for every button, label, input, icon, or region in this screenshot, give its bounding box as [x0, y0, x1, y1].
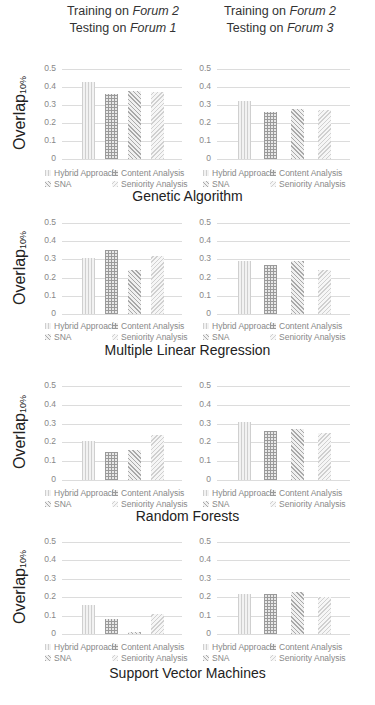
legend-swatch-icon	[112, 170, 118, 176]
legend-item-content: Content Analysis	[270, 321, 342, 332]
legend-swatch-icon	[270, 644, 276, 650]
bar-hybrid	[82, 258, 95, 314]
legend-swatch-icon	[45, 181, 51, 187]
y-tick-label: 0.5	[38, 63, 56, 73]
bar-seniority	[151, 435, 164, 480]
legend-item-hybrid: Hybrid Approach	[203, 168, 275, 179]
bar-content	[105, 619, 118, 634]
legend-swatch-icon	[203, 644, 209, 650]
gridline	[217, 542, 350, 543]
legend-swatch-icon	[270, 170, 276, 176]
gridline	[62, 542, 182, 543]
y-tick-label: 0	[193, 474, 211, 484]
y-tick-label: 0.2	[193, 272, 211, 282]
gridline	[62, 386, 182, 387]
bar-hybrid	[238, 422, 251, 480]
gridline	[62, 424, 182, 425]
legend-item-hybrid: Hybrid Approach	[45, 321, 117, 332]
y-tick-label: 0.2	[193, 436, 211, 446]
bar-seniority	[318, 433, 331, 480]
bar-content	[105, 94, 118, 159]
legend-swatch-icon	[45, 490, 51, 496]
gridline	[62, 442, 182, 443]
gridline	[62, 87, 182, 88]
legend-item-content: Content Analysis	[112, 168, 184, 179]
legend-item-hybrid: Hybrid Approach	[203, 642, 275, 653]
column-title-right: Training on Forum 2 Testing on Forum 3	[205, 3, 355, 37]
legend-item-content: Content Analysis	[112, 488, 184, 499]
bar-seniority	[318, 270, 331, 314]
gridline	[62, 223, 182, 224]
legend-swatch-icon	[270, 323, 276, 329]
y-tick-label: 0.1	[38, 610, 56, 620]
section-title: Multiple Linear Regression	[0, 342, 375, 358]
section-title: Support Vector Machines	[0, 665, 375, 681]
gridline	[217, 159, 350, 160]
y-tick-label: 0.4	[38, 235, 56, 245]
y-tick-label: 0.3	[193, 418, 211, 428]
gridline	[217, 634, 350, 635]
bar-seniority	[151, 256, 164, 314]
gridline	[62, 296, 182, 297]
y-tick-label: 0.5	[193, 380, 211, 390]
legend-swatch-icon	[270, 334, 276, 340]
bar-sna	[291, 261, 304, 314]
legend-item-content: Content Analysis	[270, 642, 342, 653]
bar-content	[105, 452, 118, 480]
gridline	[217, 386, 350, 387]
y-tick-label: 0.3	[38, 573, 56, 583]
gridline	[217, 223, 350, 224]
y-tick-label: 0.1	[38, 455, 56, 465]
bar-hybrid	[238, 261, 251, 314]
y-tick-label: 0.1	[193, 610, 211, 620]
y-tick-label: 0.5	[38, 536, 56, 546]
legend-item-sna: SNA	[45, 653, 71, 664]
y-tick-label: 0.2	[193, 117, 211, 127]
legend-item-hybrid: Hybrid Approach	[203, 321, 275, 332]
bar-content	[264, 112, 277, 159]
gridline	[217, 560, 350, 561]
y-tick-label: 0.4	[193, 235, 211, 245]
legend-item-hybrid: Hybrid Approach	[45, 168, 117, 179]
y-axis-label: Overlap10%	[11, 218, 29, 318]
bar-seniority	[151, 614, 164, 634]
legend-item-sna: SNA	[203, 653, 229, 664]
y-axis-label: Overlap10%	[11, 63, 29, 163]
y-tick-label: 0.4	[38, 399, 56, 409]
gridline	[62, 141, 182, 142]
legend-swatch-icon	[112, 490, 118, 496]
legend-swatch-icon	[112, 501, 118, 507]
legend-item-content: Content Analysis	[270, 488, 342, 499]
gridline	[62, 259, 182, 260]
gridline	[62, 480, 182, 481]
legend-swatch-icon	[270, 501, 276, 507]
bar-hybrid	[238, 101, 251, 159]
y-tick-label: 0.2	[38, 117, 56, 127]
bar-sna	[128, 270, 141, 314]
gridline	[62, 278, 182, 279]
y-tick-label: 0	[193, 628, 211, 638]
y-tick-label: 0.4	[193, 554, 211, 564]
y-tick-label: 0	[38, 628, 56, 638]
gridline	[217, 480, 350, 481]
gridline	[217, 424, 350, 425]
legend-swatch-icon	[45, 323, 51, 329]
bar-hybrid	[82, 605, 95, 634]
legend-item-hybrid: Hybrid Approach	[45, 642, 117, 653]
legend-swatch-icon	[270, 181, 276, 187]
y-tick-label: 0	[38, 153, 56, 163]
legend-swatch-icon	[45, 334, 51, 340]
bar-sna	[128, 450, 141, 480]
legend-swatch-icon	[45, 655, 51, 661]
gridline	[217, 87, 350, 88]
y-tick-label: 0.3	[38, 418, 56, 428]
y-tick-label: 0.3	[193, 99, 211, 109]
gridline	[217, 241, 350, 242]
section-title: Random Forests	[0, 508, 375, 524]
gridline	[62, 405, 182, 406]
y-tick-label: 0.1	[193, 135, 211, 145]
gridline	[217, 69, 350, 70]
y-tick-label: 0	[38, 308, 56, 318]
gridline	[62, 597, 182, 598]
bar-hybrid	[82, 82, 95, 159]
